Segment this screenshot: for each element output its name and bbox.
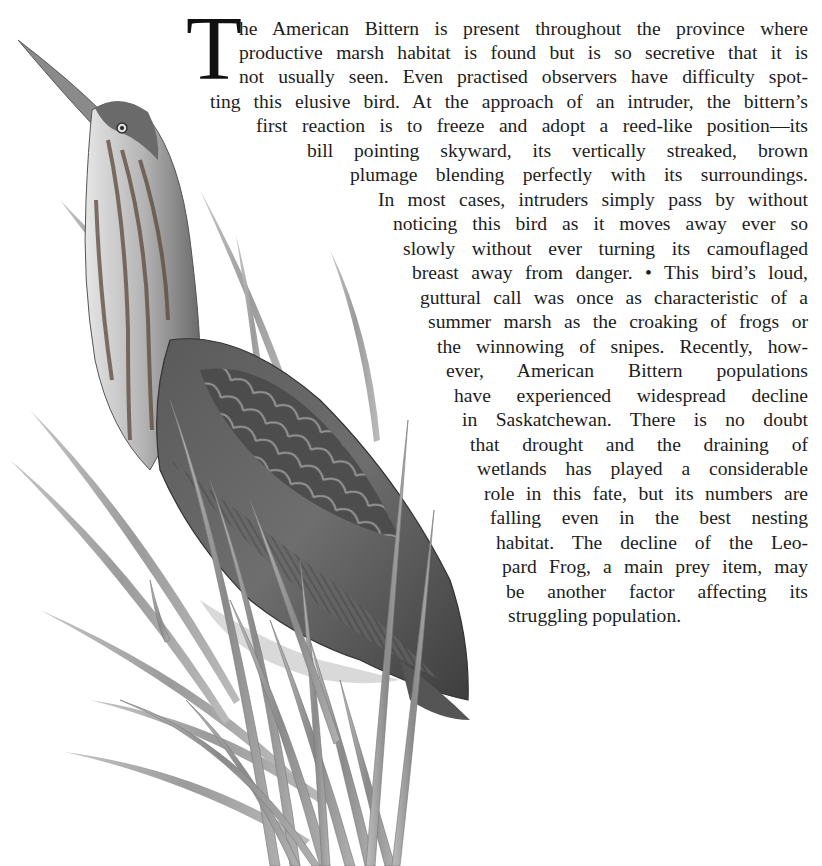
text-line: summer marsh as the croaking of frogs or bbox=[428, 310, 808, 334]
text-line: noticing this bird as it moves away ever… bbox=[393, 212, 808, 236]
text-line: not usually seen. Even practised observe… bbox=[239, 65, 808, 89]
text-line: bill pointing skyward, its vertically st… bbox=[307, 139, 808, 163]
text-line: that drought and the draining of bbox=[470, 433, 808, 457]
book-page: T he American Bittern is present through… bbox=[0, 0, 822, 866]
text-line: first reaction is to freeze and adopt a … bbox=[256, 114, 808, 138]
text-line: ting this elusive bird. At the approach … bbox=[210, 90, 808, 114]
text-line: have experienced widespread decline bbox=[454, 384, 808, 408]
text-line: plumage blending perfectly with its surr… bbox=[350, 163, 808, 187]
text-line: productive marsh habitat is found but is… bbox=[239, 41, 808, 65]
text-line: ever, American Bittern populations bbox=[446, 359, 808, 383]
text-line: wetlands has played a considerable bbox=[477, 457, 808, 481]
text-line: guttural call was once as characteristic… bbox=[420, 286, 808, 310]
text-line: slowly without ever turning its camoufla… bbox=[403, 237, 808, 261]
drop-cap: T bbox=[186, 8, 242, 88]
text-line: in Saskatchewan. There is no doubt bbox=[462, 408, 808, 432]
text-line: habitat. The decline of the Leo- bbox=[496, 531, 808, 555]
text-line: breast away from danger. • This bird’s l… bbox=[412, 261, 808, 285]
text-line: the winnowing of snipes. Recently, how- bbox=[437, 335, 808, 359]
bird-bill bbox=[18, 40, 102, 124]
text-line: falling even in the best nesting bbox=[490, 506, 808, 530]
text-line: he American Bittern is present throughou… bbox=[239, 17, 808, 41]
text-line: In most cases, intruders simply pass by … bbox=[378, 188, 808, 212]
text-line: struggling population. bbox=[508, 604, 681, 628]
text-line: pard Frog, a main prey item, may bbox=[502, 555, 808, 579]
text-line: role in this fate, but its numbers are bbox=[484, 482, 808, 506]
text-line: be another factor affecting its bbox=[506, 580, 808, 604]
